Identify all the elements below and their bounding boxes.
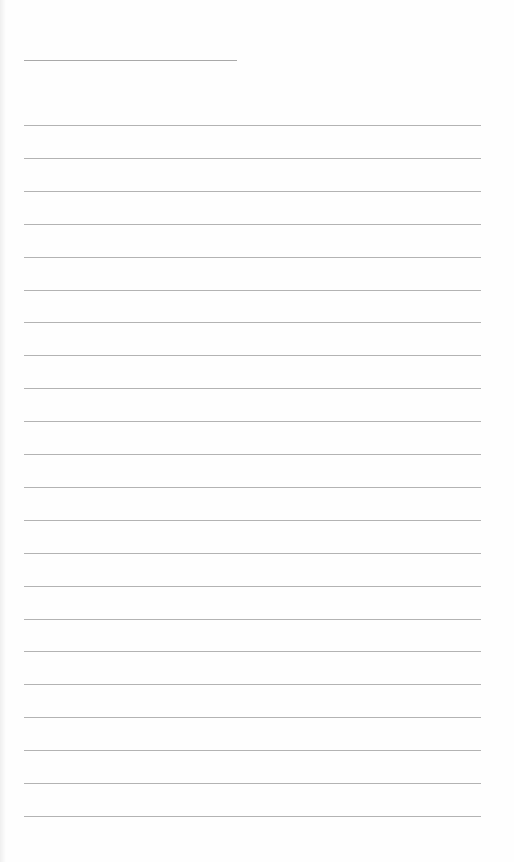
ruled-line [24, 257, 481, 258]
ruled-line [24, 191, 481, 192]
ruled-line [24, 619, 481, 620]
ruled-line [24, 355, 481, 356]
ruled-lines-container [24, 0, 481, 862]
ruled-line [24, 388, 481, 389]
ruled-line [24, 322, 481, 323]
notepaper-page [0, 0, 514, 862]
ruled-line [24, 454, 481, 455]
ruled-line [24, 684, 481, 685]
ruled-line [24, 158, 481, 159]
ruled-line [24, 421, 481, 422]
page-edge-shadow [0, 0, 6, 862]
ruled-line [24, 487, 481, 488]
ruled-line [24, 717, 481, 718]
ruled-line [24, 224, 481, 225]
ruled-line [24, 520, 481, 521]
ruled-line [24, 290, 481, 291]
ruled-line [24, 125, 481, 126]
ruled-line [24, 750, 481, 751]
ruled-line [24, 783, 481, 784]
ruled-line [24, 586, 481, 587]
ruled-line [24, 553, 481, 554]
ruled-line [24, 651, 481, 652]
ruled-line [24, 816, 481, 817]
